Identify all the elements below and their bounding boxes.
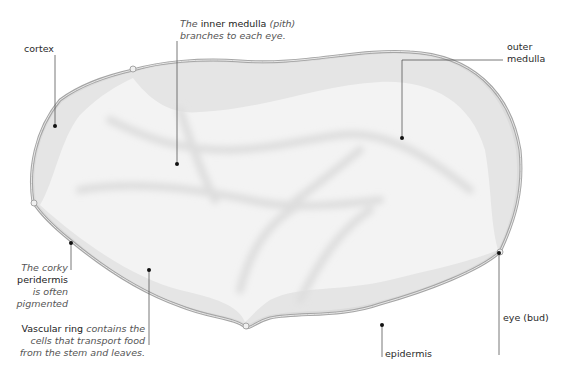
outer-medulla-line1: outer <box>507 41 532 52</box>
inner-medulla-bold: inner medulla <box>201 18 267 29</box>
dot-peridermis <box>69 241 73 245</box>
dot-epidermis <box>380 323 384 327</box>
eye-notch-left <box>31 200 37 206</box>
label-peridermis: The corky peridermis is often pigmented <box>17 262 68 310</box>
label-eye: eye (bud) <box>503 312 549 324</box>
eye-notch-top <box>130 66 136 72</box>
dot-inner-medulla <box>175 162 179 166</box>
peridermis-line1: The corky <box>21 262 68 273</box>
dot-cortex <box>53 124 57 128</box>
peridermis-bold: peridermis <box>17 274 68 285</box>
dot-outer-medulla <box>400 136 404 140</box>
eye-notch-bottom <box>243 323 249 329</box>
label-epidermis: epidermis <box>385 348 432 360</box>
inner-medulla-prefix: The <box>180 18 198 29</box>
outer-medulla-line2: medulla <box>507 53 545 64</box>
vascular-ring-bold: Vascular ring <box>21 323 83 334</box>
vascular-ring-line3: from the stem and leaves. <box>20 347 145 358</box>
label-inner-medulla: The inner medulla (pith) branches to eac… <box>180 18 295 42</box>
label-cortex: cortex <box>24 43 54 55</box>
peridermis-line3: is often <box>33 286 68 297</box>
peridermis-line4: pigmented <box>17 298 68 309</box>
label-outer-medulla: outer medulla <box>507 41 545 65</box>
vascular-ring-line2: cells that transport food <box>30 335 145 346</box>
label-vascular-ring: Vascular ring contains the cells that tr… <box>20 323 145 359</box>
dot-eye <box>497 251 501 255</box>
inner-medulla-line2: branches to each eye. <box>180 30 286 41</box>
vascular-ring-line1: contains the <box>86 323 145 334</box>
inner-medulla-paren: (pith) <box>269 18 295 29</box>
dot-vascular-ring <box>147 268 151 272</box>
